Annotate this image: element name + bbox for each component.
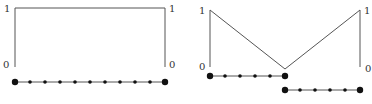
left-panel: 1 1 0 0	[3, 3, 175, 85]
right-label-bottom-left: 0	[199, 61, 205, 72]
partition-dot	[253, 74, 257, 78]
partition-dot	[88, 80, 92, 84]
partition-dot	[73, 80, 77, 84]
partition-dot	[28, 80, 32, 84]
endpoint-dot	[282, 73, 288, 79]
left-label-top-right: 1	[169, 3, 175, 14]
left-partition-rows	[12, 79, 168, 85]
right-function-graph	[210, 10, 360, 69]
partition-dot	[103, 80, 107, 84]
partition-dot	[148, 80, 152, 84]
right-partition-rows	[207, 73, 363, 93]
partition-dot	[58, 80, 62, 84]
partition-dot	[313, 88, 317, 92]
endpoint-dot	[282, 87, 288, 93]
partition-dot	[43, 80, 47, 84]
left-function-graph	[15, 8, 165, 67]
endpoint-dot	[162, 79, 168, 85]
endpoint-dot	[357, 87, 363, 93]
left-label-top-left: 1	[4, 3, 10, 14]
partition-dot	[298, 88, 302, 92]
partition-dot	[133, 80, 137, 84]
partition-dot	[238, 74, 242, 78]
partition-dot	[343, 88, 347, 92]
right-panel: 1 1 0 0	[199, 5, 371, 93]
right-label-bottom-right: 0	[365, 63, 371, 74]
right-label-top-left: 1	[199, 5, 205, 16]
diagram-canvas: 1 1 0 0 1 1 0 0	[0, 0, 372, 104]
endpoint-dot	[207, 73, 213, 79]
partition-dot	[268, 74, 272, 78]
endpoint-dot	[12, 79, 18, 85]
right-label-top-right: 1	[364, 5, 370, 16]
left-label-bottom-left: 0	[3, 59, 9, 70]
partition-dot	[328, 88, 332, 92]
partition-dot	[118, 80, 122, 84]
partition-dot	[223, 74, 227, 78]
left-label-bottom-right: 0	[169, 59, 175, 70]
